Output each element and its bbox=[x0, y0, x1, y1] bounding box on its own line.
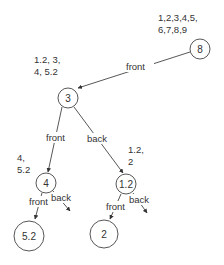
node-label: 2 bbox=[101, 229, 107, 240]
node-set-label: 6,7,8,9 bbox=[158, 24, 187, 35]
diagram-svg: frontfrontbackfrontbackfrontback 8341.25… bbox=[0, 0, 224, 265]
edge-label: back bbox=[87, 133, 107, 144]
tree-node-8: 8 bbox=[190, 39, 210, 59]
tree-node-4: 4 bbox=[36, 173, 56, 193]
node-set-label: 4, 5.2 bbox=[34, 66, 58, 77]
edge-back: back bbox=[50, 191, 74, 211]
node-label: 3 bbox=[65, 93, 71, 104]
edge-back: back bbox=[74, 107, 123, 173]
tree-node-2: 2 bbox=[90, 220, 118, 248]
tree-node-1.2: 1.2 bbox=[116, 174, 136, 194]
edge-label: front bbox=[126, 61, 145, 72]
edge-label: back bbox=[51, 192, 71, 203]
edge-label: back bbox=[129, 194, 149, 205]
edges-group: frontfrontbackfrontbackfrontback bbox=[28, 52, 190, 219]
bsp-tree-diagram: frontfrontbackfrontbackfrontback 8341.25… bbox=[0, 0, 224, 265]
node-set-label: 1.2, 3, bbox=[34, 54, 60, 65]
edge-front: front bbox=[45, 107, 74, 172]
edge-label: front bbox=[46, 132, 65, 143]
node-set-label: 2 bbox=[128, 156, 133, 167]
tree-node-5.2: 5.2 bbox=[14, 221, 44, 251]
node-label: 8 bbox=[197, 44, 203, 55]
node-set-label: 4, bbox=[17, 152, 25, 163]
node-set-label: 1,2,3,4,5, bbox=[158, 12, 198, 23]
node-set-label: 5.2 bbox=[17, 164, 30, 175]
edge-label: front bbox=[106, 201, 125, 212]
set-labels-group: 1,2,3,4,5,6,7,8,91.2, 3,4, 5.24,5.21.2,2 bbox=[17, 12, 198, 175]
node-label: 1.2 bbox=[119, 179, 133, 190]
node-set-label: 1.2, bbox=[128, 144, 144, 155]
tree-node-3: 3 bbox=[58, 88, 78, 108]
edge-front: front bbox=[78, 52, 190, 88]
node-label: 4 bbox=[43, 178, 49, 189]
node-label: 5.2 bbox=[22, 231, 36, 242]
edge-label: front bbox=[29, 196, 48, 207]
